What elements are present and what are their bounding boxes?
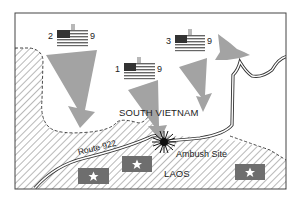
ambush-site-label: Ambush Site	[176, 150, 227, 159]
region-label-laos: LAOS	[164, 169, 190, 179]
star-flag-icon	[235, 164, 265, 180]
unit-1-number: 1	[115, 65, 120, 74]
region-label-south-vietnam: SOUTH VIETNAM	[119, 108, 198, 118]
unit-2-number: 2	[48, 32, 53, 41]
explosion-starburst-icon	[152, 131, 176, 153]
unit-3-designation: 9	[207, 37, 212, 46]
unit-1-designation: 9	[157, 65, 162, 74]
unit-2-designation: 9	[90, 32, 95, 41]
unit-3-number: 3	[166, 37, 171, 46]
map-canvas	[0, 0, 305, 203]
star-flag-icon	[78, 168, 109, 184]
star-flag-icon	[122, 156, 152, 172]
